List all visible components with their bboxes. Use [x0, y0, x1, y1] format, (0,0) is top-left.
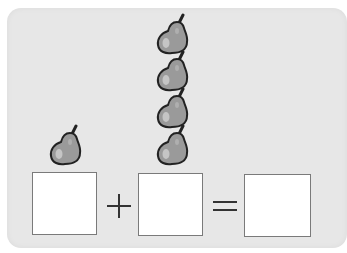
- pear-icon: [155, 124, 191, 166]
- answer-box-result[interactable]: [244, 174, 311, 237]
- pear-icon: [155, 87, 191, 129]
- equals-sign-top: [213, 201, 237, 203]
- pear-icon: [155, 50, 191, 92]
- plus-sign-vertical: [118, 194, 120, 218]
- answer-box-1[interactable]: [32, 172, 97, 235]
- pear-icon: [48, 124, 84, 166]
- pear-icon: [155, 13, 191, 55]
- equals-sign-bottom: [213, 209, 237, 211]
- answer-box-2[interactable]: [138, 173, 203, 236]
